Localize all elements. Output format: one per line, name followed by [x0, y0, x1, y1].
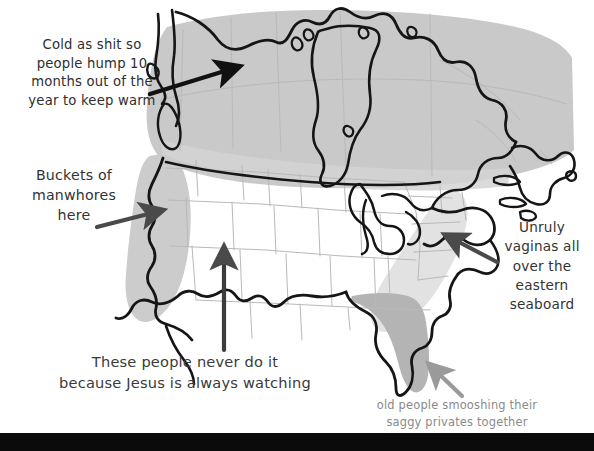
north-america-map	[0, 0, 594, 451]
arrow-unruly	[455, 240, 497, 262]
map-annotation-canvas: Cold as shit so people hump 10 months ou…	[0, 0, 594, 451]
outline-baja	[166, 326, 194, 384]
region-west-coast-shade	[126, 155, 191, 322]
arrow-oldpeople	[437, 372, 462, 396]
bottom-black-band	[0, 433, 594, 451]
